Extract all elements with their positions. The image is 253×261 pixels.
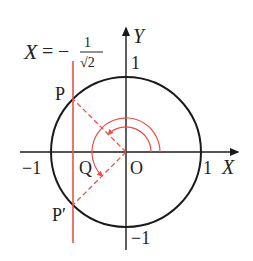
- x-pos-tick-label: 1: [203, 158, 212, 178]
- origin-label: O: [130, 158, 143, 178]
- y-neg-tick-label: −1: [131, 228, 150, 248]
- unit-circle-diagram: X = − 1 √2 Y 1 X 1 −1 −1 O P P′ Q: [0, 0, 253, 261]
- point-P-prime-label: P′: [52, 205, 66, 225]
- y-pos-tick-label: 1: [131, 53, 140, 73]
- x-neg-tick-label: −1: [22, 158, 41, 178]
- equation-minus: −: [58, 40, 69, 62]
- angle-arc-135: [108, 127, 151, 152]
- equation-denominator: √2: [80, 55, 95, 70]
- y-axis-label: Y: [133, 25, 146, 47]
- x-axis-label: X: [221, 156, 235, 178]
- point-P-label: P: [55, 84, 65, 104]
- point-Q-label: Q: [79, 158, 92, 178]
- dashed-radius-OP: [73, 99, 126, 152]
- equation-lhs: X: [23, 39, 39, 64]
- equation-numerator: 1: [84, 35, 91, 50]
- equation-equals: =: [42, 40, 53, 62]
